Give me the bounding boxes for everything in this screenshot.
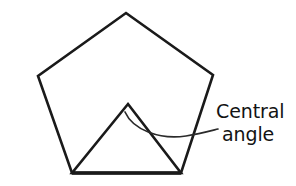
central-angle-label-line-1: Central: [216, 100, 284, 122]
central-angle-label-line-2: angle: [222, 123, 274, 145]
geometry-diagram: Central angle: [0, 0, 296, 186]
pentagon-central-angle-figure: Central angle: [0, 0, 296, 186]
pentagon-shape: [38, 13, 213, 173]
central-angle-arc: [125, 112, 218, 137]
